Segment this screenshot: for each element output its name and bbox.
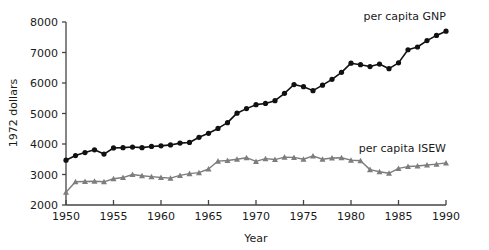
data-point-marker xyxy=(263,101,268,106)
data-point-marker xyxy=(234,111,239,116)
y-tick-label: 3000 xyxy=(30,169,58,182)
data-point-marker xyxy=(168,142,173,147)
x-tick-label: 1965 xyxy=(195,210,223,223)
x-axis-title: Year xyxy=(243,232,268,245)
data-point-marker xyxy=(291,82,296,87)
data-point-marker xyxy=(149,144,154,149)
data-point-marker xyxy=(434,33,439,38)
data-point-marker xyxy=(386,66,391,71)
x-tick-label: 1950 xyxy=(52,210,80,223)
series-label-isew: per capita ISEW xyxy=(359,142,446,155)
x-tick-label: 1980 xyxy=(337,210,365,223)
data-point-marker xyxy=(158,143,163,148)
data-point-marker xyxy=(282,91,287,96)
data-point-marker xyxy=(301,84,306,89)
x-tick-label: 1975 xyxy=(290,210,318,223)
y-axis-title: 1972 dollars xyxy=(7,79,20,148)
y-tick-label: 7000 xyxy=(30,47,58,60)
data-point-marker xyxy=(111,145,116,150)
data-point-marker xyxy=(367,64,372,69)
data-point-marker xyxy=(415,44,420,49)
data-point-marker xyxy=(73,153,78,158)
data-point-marker xyxy=(443,29,448,34)
data-point-marker xyxy=(82,150,87,155)
data-point-marker xyxy=(196,135,201,140)
data-point-marker xyxy=(272,98,277,103)
data-point-marker xyxy=(329,77,334,82)
x-tick-label: 1970 xyxy=(242,210,270,223)
data-point-marker xyxy=(339,70,344,75)
data-point-marker xyxy=(253,102,258,107)
data-point-marker xyxy=(177,140,182,145)
series-label-gnp: per capita GNP xyxy=(363,10,446,23)
x-tick-label: 1985 xyxy=(385,210,413,223)
data-point-marker xyxy=(215,126,220,131)
data-point-marker xyxy=(130,144,135,149)
data-point-marker xyxy=(120,145,125,150)
data-point-marker xyxy=(101,151,106,156)
data-point-marker xyxy=(187,140,192,145)
x-tick-label: 1955 xyxy=(100,210,128,223)
data-point-marker xyxy=(348,61,353,66)
data-point-marker xyxy=(358,62,363,67)
data-point-marker xyxy=(244,106,249,111)
y-tick-label: 6000 xyxy=(30,77,58,90)
y-tick-label: 5000 xyxy=(30,108,58,121)
data-point-marker xyxy=(424,38,429,43)
data-point-marker xyxy=(310,88,315,93)
data-point-marker xyxy=(396,60,401,65)
data-point-marker xyxy=(139,145,144,150)
y-tick-label: 8000 xyxy=(30,16,58,29)
data-point-marker xyxy=(320,83,325,88)
x-tick-label: 1960 xyxy=(147,210,175,223)
y-tick-label: 4000 xyxy=(30,138,58,151)
chart-container: 2000300040005000600070008000 19501955196… xyxy=(0,0,489,250)
data-point-marker xyxy=(405,47,410,52)
x-tick-label: 1990 xyxy=(432,210,460,223)
line-chart: 2000300040005000600070008000 19501955196… xyxy=(0,0,489,250)
data-point-marker xyxy=(225,120,230,125)
data-point-marker xyxy=(377,61,382,66)
data-point-marker xyxy=(63,158,68,163)
data-point-marker xyxy=(92,147,97,152)
x-axis-ticks: 195019551960196519701975198019851990 xyxy=(52,200,460,223)
data-point-marker xyxy=(206,131,211,136)
